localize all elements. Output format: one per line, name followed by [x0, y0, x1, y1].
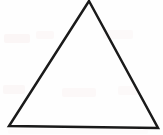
figure-canvas: Triangle Outline drawing of a triangle [0, 0, 163, 135]
triangle-svg [0, 0, 163, 135]
triangle-shape [9, 1, 158, 128]
